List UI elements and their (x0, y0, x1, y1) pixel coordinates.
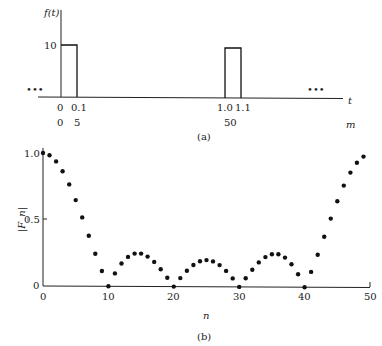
data-point (204, 258, 208, 262)
a-xlabel-m: m (346, 119, 355, 130)
data-point (47, 153, 51, 157)
m-tick-50: 50 (224, 117, 237, 128)
t-tick-1.1: 1.1 (235, 102, 251, 113)
ellipsis-left: ••• (26, 84, 44, 95)
a-x-axis (38, 97, 343, 99)
t-tick-0.1: 0.1 (71, 102, 87, 113)
data-point (198, 259, 202, 263)
data-point (152, 260, 156, 264)
data-point (113, 271, 117, 275)
data-point (237, 285, 241, 289)
data-point (355, 161, 359, 165)
pulse-2 (225, 48, 241, 98)
data-point (296, 272, 300, 276)
data-point (126, 255, 130, 259)
data-point (283, 255, 287, 259)
data-point (302, 285, 306, 289)
a-ylabel: f(t) (43, 7, 60, 18)
data-point (145, 254, 149, 258)
data-point (244, 276, 248, 280)
data-point (74, 198, 78, 202)
panel-b: 1.0 0.5 0 0 10 20 30 40 50 n (b) |F_n| (16, 148, 377, 342)
b-x-axis (43, 286, 370, 288)
b-ytick-label-0: 0 (33, 280, 39, 291)
data-point (54, 159, 58, 163)
t-tick-1.0: 1.0 (217, 102, 233, 113)
data-point (217, 263, 221, 267)
data-point (159, 267, 163, 271)
data-point (67, 182, 71, 186)
data-point (41, 151, 45, 155)
m-tick-5: 5 (74, 117, 80, 128)
b-ytick-label-1.0: 1.0 (24, 148, 40, 159)
data-point (100, 269, 104, 273)
data-point (361, 154, 365, 158)
data-point (119, 261, 123, 265)
b-xtick-10: 10 (102, 291, 115, 302)
data-point (322, 235, 326, 239)
figure: f(t) 10 ••• ••• 0 0.1 1.0 1.1 0 5 50 t m… (0, 0, 382, 346)
data-point (329, 216, 333, 220)
data-point (263, 255, 267, 259)
m-tick-0: 0 (57, 117, 63, 128)
a-xlabel-t: t (348, 95, 353, 106)
data-point (270, 252, 274, 256)
data-point (342, 183, 346, 187)
b-xtick-20: 20 (167, 291, 180, 302)
data-point (139, 251, 143, 255)
data-point (191, 263, 195, 267)
data-point (165, 276, 169, 280)
b-data-points (41, 151, 366, 290)
data-point (80, 215, 84, 219)
data-point (335, 199, 339, 203)
data-point (231, 276, 235, 280)
data-point (185, 269, 189, 273)
a-ytick-10: 10 (44, 40, 57, 51)
data-point (276, 252, 280, 256)
b-xtick-0: 0 (40, 291, 46, 302)
b-caption: (b) (197, 331, 211, 342)
b-xtick-40: 40 (298, 291, 311, 302)
data-point (106, 284, 110, 288)
t-tick-0: 0 (57, 102, 63, 113)
data-point (257, 260, 261, 264)
data-point (348, 170, 352, 174)
panel-a: f(t) 10 ••• ••• 0 0.1 1.0 1.1 0 5 50 t m… (26, 7, 355, 142)
data-point (172, 284, 176, 288)
ellipsis-right: ••• (307, 84, 325, 95)
data-point (93, 252, 97, 256)
data-point (309, 270, 313, 274)
data-point (178, 276, 182, 280)
pulse-1 (61, 45, 77, 97)
data-point (250, 268, 254, 272)
data-point (289, 262, 293, 266)
b-xtick-30: 30 (233, 291, 246, 302)
data-point (132, 251, 136, 255)
b-ylabel: |F_n| (16, 207, 28, 232)
a-caption: (a) (197, 131, 211, 142)
data-point (224, 269, 228, 273)
data-point (211, 259, 215, 263)
b-xtick-50: 50 (364, 291, 377, 302)
data-point (87, 234, 91, 238)
data-point (60, 169, 64, 173)
data-point (316, 253, 320, 257)
b-xlabel: n (203, 310, 209, 321)
